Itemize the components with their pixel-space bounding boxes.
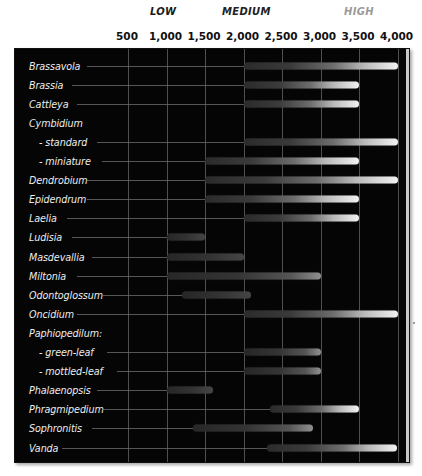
row-label-laelia: Laelia [29,213,57,224]
row-leader-rule [72,85,244,86]
range-bar [267,444,398,451]
chart-row: Epidendrum [15,190,409,209]
chart-row: Ludisia [15,228,409,247]
chart-row: - green-leaf [15,343,409,362]
row-label-sophronitis: Sophronitis [29,423,82,434]
axis-tick-500: 500 [116,30,138,42]
row-label-cattleya: Cattleya [29,98,68,109]
range-bar [182,291,251,298]
row-leader-rule [87,180,205,181]
range-bar [193,425,312,432]
row-label-ludisia: Ludisia [29,232,62,243]
chart-row: Phalaenopsis [15,381,409,400]
range-bar [205,158,359,165]
range-bar [244,138,398,145]
x-axis-tick-labels: 5001,0001,5002,0002,5003,0003,5004,000 [0,30,422,46]
chart-row: - standard [15,132,409,151]
row-label-mottled-leaf: - mottled-leaf [39,366,103,377]
axis-tick-3000: 3,000 [303,30,336,42]
row-leader-rule [77,104,244,105]
chart-row: Masdevallia [15,247,409,266]
row-label-masdevallia: Masdevallia [29,251,84,262]
range-bar [244,368,321,375]
range-bar [244,215,360,222]
row-leader-rule [102,295,182,296]
band-header: LOW MEDIUM HIGH [0,6,422,24]
row-leader-rule [77,276,167,277]
chart-row: Dendrobium [15,171,409,190]
row-label-epidendrum: Epidendrum [29,194,86,205]
axis-tick-1500: 1,500 [187,30,220,42]
axis-tick-4000: 4,000 [380,30,413,42]
axis-tick-3500: 3,500 [341,30,374,42]
row-leader-rule [72,237,167,238]
chart-row: Cymbidium [15,113,409,132]
row-label-paphiopedilum: Paphiopedilum: [29,327,102,338]
row-leader-rule [67,218,244,219]
row-leader-rule [97,142,244,143]
range-bar [244,100,360,107]
light-requirement-chart: LOW MEDIUM HIGH 5001,0001,5002,0002,5003… [0,0,422,476]
chart-row: Brassia [15,75,409,94]
chart-row: Brassavola [15,56,409,75]
row-leader-rule [92,428,193,429]
chart-row: Laelia [15,209,409,228]
chart-row: Phragmipedium [15,400,409,419]
row-leader-rule [117,371,244,372]
chart-row: Vanda [15,438,409,457]
chart-row: - mottled-leaf [15,362,409,381]
chart-row: Miltonia [15,266,409,285]
row-label-vanda: Vanda [29,442,58,453]
range-bar [167,234,206,241]
range-bar [270,406,359,413]
chart-row: Odontoglossum [15,285,409,304]
row-label-brassia: Brassia [29,79,63,90]
axis-tick-2000: 2,000 [226,30,259,42]
band-label-low: LOW [150,6,176,18]
row-leader-rule [107,352,244,353]
chart-row: - miniature [15,152,409,171]
range-bar [244,310,398,317]
chart-plot-area: BrassavolaBrassiaCattleyaCymbidium- stan… [14,48,410,463]
row-label-standard: - standard [39,136,87,147]
row-leader-rule [87,66,244,67]
range-bar [205,196,359,203]
row-label-green-leaf: - green-leaf [39,347,94,358]
row-label-phragmipedium: Phragmipedium [29,404,104,415]
row-label-dendrobium: Dendrobium [29,175,87,186]
axis-tick-1000: 1,000 [149,30,182,42]
row-leader-rule [87,199,205,200]
row-leader-rule [92,257,167,258]
row-label-phalaenopsis: Phalaenopsis [29,385,91,396]
row-leader-rule [102,409,270,410]
chart-row: Paphiopedilum: [15,323,409,342]
row-label-miniature: - miniature [39,156,91,167]
row-leader-rule [77,314,244,315]
range-bar [205,177,398,184]
range-bar [244,62,398,69]
chart-row: Sophronitis [15,419,409,438]
scan-artifact-dot [413,322,415,324]
band-label-medium: MEDIUM [222,6,271,18]
range-bar [244,81,360,88]
band-label-high: HIGH [344,6,374,18]
axis-tick-2500: 2,500 [264,30,297,42]
row-label-odontoglossum: Odontoglossum [29,289,103,300]
row-leader-rule [97,390,167,391]
row-label-oncidium: Oncidium [29,308,74,319]
row-label-miltonia: Miltonia [29,270,66,281]
row-label-cymbidium: Cymbidium [29,117,83,128]
range-bar [167,272,321,279]
range-bar [167,253,244,260]
row-leader-rule [62,448,267,449]
chart-row: Oncidium [15,304,409,323]
row-leader-rule [102,161,205,162]
range-bar [244,349,321,356]
range-bar [167,387,213,394]
row-label-brassavola: Brassavola [29,60,80,71]
chart-row: Cattleya [15,94,409,113]
